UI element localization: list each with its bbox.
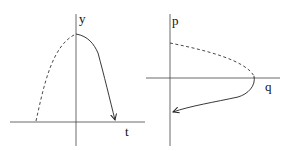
t-axis-label: t [125,125,129,138]
diagram-canvas [0,0,290,151]
p-axis-label: p [172,14,179,27]
dashed-rising-branch [36,34,76,121]
q-axis-label: q [265,80,272,93]
phase-plot [146,14,280,146]
dashed-upper-branch [170,43,254,76]
solid-lower-branch [173,76,254,112]
solid-falling-branch [76,34,115,120]
y-axis-label: y [79,12,86,25]
